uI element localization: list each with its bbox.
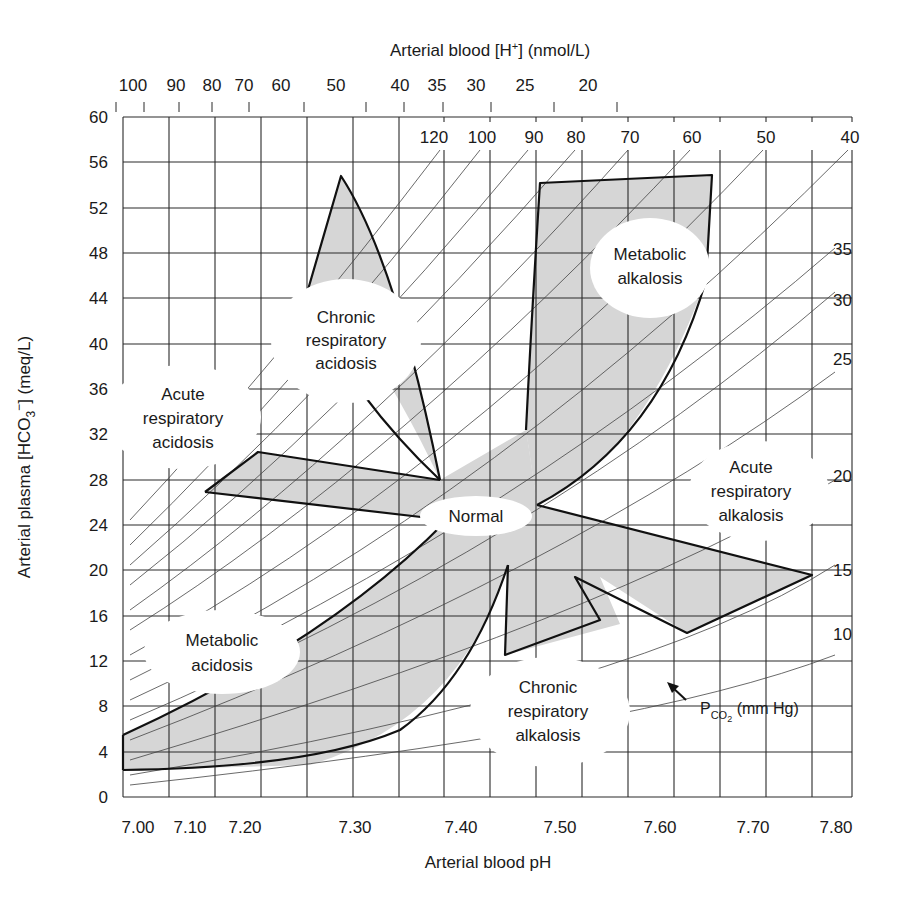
svg-text:100: 100 — [119, 76, 147, 95]
svg-text:7.30: 7.30 — [338, 818, 371, 837]
svg-text:50: 50 — [327, 76, 346, 95]
svg-text:60: 60 — [683, 128, 702, 147]
isopleth-labels-top: 120 100 90 80 70 60 50 40 — [420, 122, 860, 150]
svg-text:15: 15 — [833, 561, 852, 580]
y-tick-labels: 0 4 8 12 16 20 24 28 32 36 40 44 48 52 5… — [89, 108, 108, 807]
svg-text:30: 30 — [467, 76, 486, 95]
svg-text:35: 35 — [428, 76, 447, 95]
svg-text:40: 40 — [391, 76, 410, 95]
label-metabolic-acidosis-1: Metabolic — [186, 631, 259, 650]
svg-text:56: 56 — [89, 153, 108, 172]
isopleth-labels-right: 35 30 25 20 15 10 — [833, 240, 852, 644]
x-tick-labels: 7.00 7.10 7.20 7.30 7.40 7.50 7.60 7.70 … — [121, 818, 852, 837]
svg-text:50: 50 — [757, 128, 776, 147]
svg-text:36: 36 — [89, 380, 108, 399]
label-chronic-resp-alkalosis-1: Chronic — [519, 678, 578, 697]
svg-text:90: 90 — [167, 76, 186, 95]
svg-text:30: 30 — [833, 291, 852, 310]
svg-text:20: 20 — [89, 561, 108, 580]
svg-text:0: 0 — [99, 788, 108, 807]
svg-text:80: 80 — [203, 76, 222, 95]
svg-text:7.20: 7.20 — [228, 818, 261, 837]
label-acute-resp-alkalosis-1: Acute — [729, 458, 772, 477]
top-ticks — [116, 102, 617, 112]
svg-text:4: 4 — [99, 743, 108, 762]
svg-text:40: 40 — [841, 128, 860, 147]
svg-text:40: 40 — [89, 335, 108, 354]
label-chronic-resp-acidosis-1: Chronic — [317, 308, 376, 327]
label-acute-resp-alkalosis-3: alkalosis — [718, 506, 783, 525]
label-acute-resp-acidosis-2: respiratory — [143, 409, 224, 428]
label-acute-resp-acidosis-1: Acute — [161, 385, 204, 404]
label-normal: Normal — [449, 507, 504, 526]
x-axis-title: Arterial blood pH — [425, 853, 552, 872]
svg-text:7.80: 7.80 — [819, 818, 852, 837]
y-axis-title: Arterial plasma [HCO3−] (meq/L) — [12, 336, 38, 578]
svg-text:80: 80 — [567, 128, 586, 147]
svg-text:25: 25 — [833, 350, 852, 369]
svg-text:7.10: 7.10 — [173, 818, 206, 837]
label-chronic-resp-acidosis-3: acidosis — [315, 354, 376, 373]
label-metabolic-acidosis-2: acidosis — [191, 656, 252, 675]
label-acute-resp-alkalosis-2: respiratory — [711, 482, 792, 501]
svg-text:10: 10 — [833, 625, 852, 644]
svg-text:35: 35 — [833, 240, 852, 259]
svg-text:24: 24 — [89, 516, 108, 535]
label-acute-resp-acidosis-3: acidosis — [152, 433, 213, 452]
svg-text:7.00: 7.00 — [121, 818, 154, 837]
label-chronic-resp-alkalosis-2: respiratory — [508, 702, 589, 721]
svg-text:28: 28 — [89, 471, 108, 490]
svg-text:7.50: 7.50 — [543, 818, 576, 837]
svg-text:60: 60 — [89, 108, 108, 127]
svg-text:25: 25 — [516, 76, 535, 95]
svg-text:PCO2 (mm Hg): PCO2 (mm Hg) — [700, 700, 799, 724]
svg-text:70: 70 — [235, 76, 254, 95]
top-axis-title: Arterial blood [H+] (nmol/L) — [390, 40, 590, 60]
svg-text:100: 100 — [468, 128, 496, 147]
svg-text:70: 70 — [621, 128, 640, 147]
acid-base-nomogram: Arterial blood [H+] (nmol/L) 100 90 80 7… — [0, 0, 920, 912]
svg-text:7.70: 7.70 — [736, 818, 769, 837]
svg-text:32: 32 — [89, 425, 108, 444]
svg-text:52: 52 — [89, 199, 108, 218]
svg-text:20: 20 — [833, 467, 852, 486]
svg-text:20: 20 — [579, 76, 598, 95]
label-metabolic-alkalosis-2: alkalosis — [617, 269, 682, 288]
svg-text:7.40: 7.40 — [444, 818, 477, 837]
label-chronic-resp-acidosis-2: respiratory — [306, 331, 387, 350]
svg-text:60: 60 — [272, 76, 291, 95]
svg-text:48: 48 — [89, 244, 108, 263]
svg-text:90: 90 — [525, 128, 544, 147]
pco2-annotation: PCO2 (mm Hg) — [667, 682, 799, 724]
top-tick-labels: 100 90 80 70 60 50 40 35 30 25 20 — [119, 76, 598, 95]
svg-text:16: 16 — [89, 607, 108, 626]
svg-text:44: 44 — [89, 289, 108, 308]
label-metabolic-alkalosis-1: Metabolic — [614, 245, 687, 264]
svg-text:12: 12 — [89, 652, 108, 671]
svg-text:120: 120 — [420, 128, 448, 147]
svg-text:8: 8 — [99, 697, 108, 716]
svg-text:7.60: 7.60 — [643, 818, 676, 837]
label-chronic-resp-alkalosis-3: alkalosis — [515, 726, 580, 745]
